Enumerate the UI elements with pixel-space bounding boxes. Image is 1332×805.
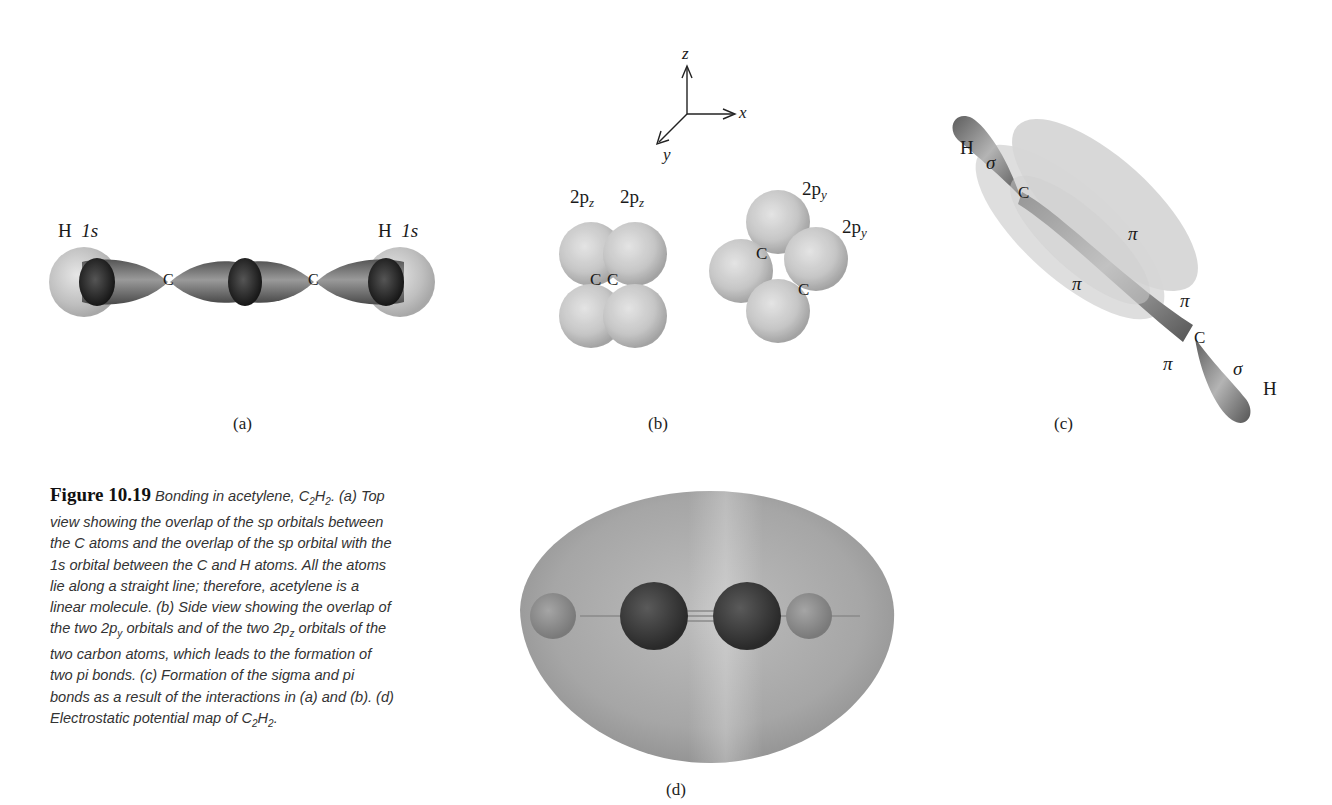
figure-caption: Figure 10.19 Bonding in acetylene, C2H2.… [50,484,395,734]
pi-label-2: π [1072,273,1082,295]
2pz-label-2: 2pz [620,186,644,211]
axis-z-label: z [682,44,689,64]
c-label-b5: C [590,270,601,290]
panel-c: H σ C π π π π C σ H (c) [900,0,1332,450]
caption-formula-end: C2H2 [241,710,273,726]
pi-label-1: π [1128,223,1138,245]
c-bottom-label: C [1194,328,1205,348]
c-atom-left [620,582,688,650]
panel-c-tag: (c) [1054,414,1073,434]
h-atom-right [786,593,832,639]
panel-d: (d) [480,450,940,805]
electrostatic-potential-map [480,450,940,805]
2pz-label-1: 2pz [570,186,594,211]
panel-b: z x y 2pz 2pz 2py 2py C C C C C (b) [460,0,900,450]
pi-label-3: π [1180,290,1190,312]
panel-a-tag: (a) [233,414,252,434]
h-atom-left [530,593,576,639]
axis-x-label: x [739,103,747,123]
c-left-label: C [163,271,174,289]
2py-orbitals [709,190,848,343]
axes-icon [460,0,900,450]
caption-body: . (a) Top view showing the overlap of th… [50,488,392,636]
2py-label-2: 2py [842,216,867,241]
pi-label-4: π [1163,353,1173,375]
panel-b-tag: (b) [648,414,668,434]
h-left-label: H 1s [58,220,98,242]
caption-intro: Bonding in acetylene, [155,488,295,504]
c-top-label: C [1018,183,1029,203]
sigma-bottom-label: σ [1233,358,1242,380]
c-right-label: C [308,271,319,289]
2py-label-1: 2py [802,178,827,203]
sigma-top-label: σ [986,152,995,174]
caption-formula: C2H2 [299,488,331,504]
panel-a: H 1s H 1s C C (a) [0,0,460,450]
c-atom-right [713,582,781,650]
h-top-label: H [960,137,974,159]
panel-d-tag: (d) [666,780,686,800]
axis-y-label: y [663,145,671,165]
figure-number: Figure 10.19 [50,484,151,505]
c-label-b3: C [756,244,767,264]
c-label-b4: C [798,280,809,300]
h-right-label: H 1s [378,220,418,242]
c-label-b1: C [607,270,618,290]
h-bottom-label: H [1263,378,1277,400]
